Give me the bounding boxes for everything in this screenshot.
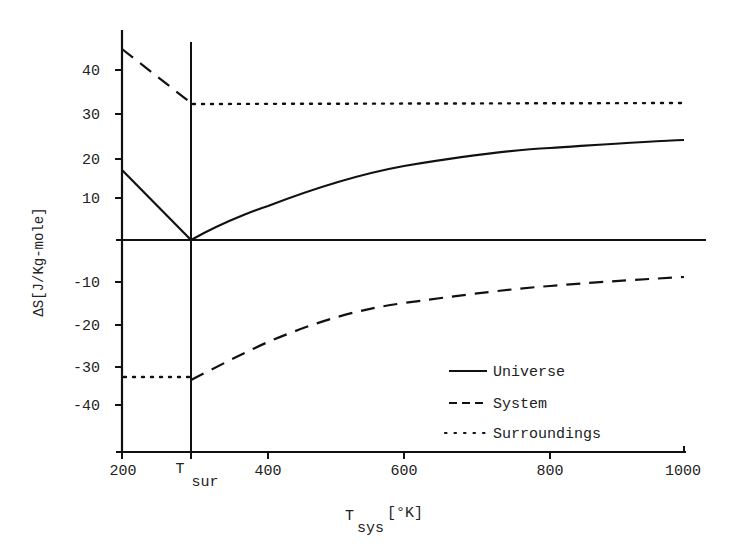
legend-item-surroundings: Surroundings (445, 426, 601, 443)
y-tick-10: 10 (82, 191, 100, 208)
y-tick-minus-30: -30 (73, 360, 100, 377)
y-tick-30: 30 (82, 107, 100, 124)
y-axis-label: ΔS[J/Kg-mole] (31, 207, 47, 316)
x-axis-label-main: T (345, 508, 354, 525)
series-universe (122, 140, 684, 240)
y-tick-20: 20 (82, 152, 100, 169)
x-tick-tsur-subscript: sur (191, 474, 218, 491)
y-tick-minus-20: -20 (73, 318, 100, 335)
y-tick-minus-10: -10 (73, 275, 100, 292)
x-tick-tsur: T (175, 461, 184, 478)
y-tick-labels: 40 30 20 10 -10 -20 -30 -40 (73, 63, 100, 415)
x-tick-labels: 200 T sur 400 600 800 1000 (109, 461, 701, 491)
legend-label-system: System (493, 396, 547, 413)
x-tick-600: 600 (390, 463, 417, 480)
y-tick-minus-40: -40 (73, 398, 100, 415)
y-tick-40: 40 (82, 63, 100, 80)
x-tick-800: 800 (536, 463, 563, 480)
legend-label-universe: Universe (493, 364, 565, 381)
x-axis-label: T sys [°K] (345, 505, 423, 537)
x-tick-200: 200 (109, 463, 136, 480)
legend-item-universe: Universe (449, 364, 565, 381)
x-tick-1000: 1000 (665, 463, 701, 480)
legend-label-surroundings: Surroundings (493, 426, 601, 443)
x-axis-label-subscript: sys (357, 520, 384, 537)
x-tick-400: 400 (254, 463, 281, 480)
series-system (122, 49, 684, 380)
legend-item-system: System (449, 396, 547, 413)
x-axis-label-unit: [°K] (387, 505, 423, 522)
legend: Universe System Surroundings (445, 364, 601, 443)
entropy-chart: 40 30 20 10 -10 -20 -30 -40 200 T sur 40… (0, 0, 735, 554)
